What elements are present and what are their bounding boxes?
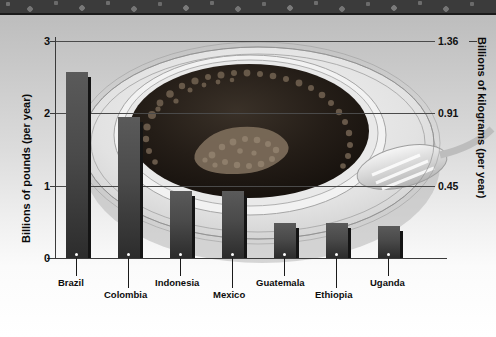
leader-uganda [388, 258, 389, 276]
y2-tick-label-045: 0.45 [438, 180, 472, 192]
y-tick-label-0: 0 [26, 252, 50, 264]
bar-brazil[interactable] [66, 72, 88, 258]
leader-mexico [232, 258, 233, 288]
right-axis-title: Billions of kilograms (per year) [476, 37, 488, 198]
y2-tick-label-091: 0.91 [438, 107, 472, 119]
bar-marker-indonesia [179, 253, 182, 256]
y-axis [55, 37, 56, 259]
x-label-ethiopia: Ethiopia [315, 289, 352, 300]
bar-marker-uganda [387, 253, 390, 256]
x-label-guatemala: Guatemala [256, 277, 305, 288]
leader-indonesia [180, 258, 181, 276]
y-tickmark-3 [50, 41, 55, 42]
bar-marker-ethiopia [335, 253, 338, 256]
leader-guatemala [284, 258, 285, 276]
x-axis [47, 258, 447, 259]
y-tickmark-1 [50, 186, 55, 187]
y-tickmark-0 [50, 258, 55, 259]
x-label-brazil: Brazil [58, 277, 84, 288]
leader-ethiopia [336, 258, 337, 288]
bar-marker-mexico [231, 253, 234, 256]
left-axis-title: Billions of pounds (per year) [20, 94, 32, 243]
leader-colombia [128, 258, 129, 288]
bar-marker-guatemala [283, 253, 286, 256]
bar-marker-brazil [75, 253, 78, 256]
gridline-3 [55, 41, 435, 42]
gridline-2 [55, 113, 435, 114]
y-tick-label-3: 3 [26, 35, 50, 47]
bar-colombia[interactable] [118, 117, 140, 258]
bar-mexico[interactable] [222, 191, 244, 258]
plot-area: 3 2 1 0 1.36 0.91 0.45 [0, 15, 496, 337]
bar-marker-colombia [127, 253, 130, 256]
bar-indonesia[interactable] [170, 191, 192, 258]
leader-brazil [76, 258, 77, 276]
x-label-colombia: Colombia [104, 289, 147, 300]
y2-tick-label-136: 1.36 [438, 35, 472, 47]
x-label-mexico: Mexico [213, 289, 245, 300]
chart-figure: 3 2 1 0 1.36 0.91 0.45 [0, 0, 496, 337]
gridline-1 [55, 186, 435, 187]
chart-panel: 3 2 1 0 1.36 0.91 0.45 [0, 15, 496, 337]
x-label-uganda: Uganda [370, 277, 405, 288]
y-tickmark-2 [50, 113, 55, 114]
x-label-indonesia: Indonesia [155, 277, 199, 288]
decorative-band [0, 0, 496, 13]
